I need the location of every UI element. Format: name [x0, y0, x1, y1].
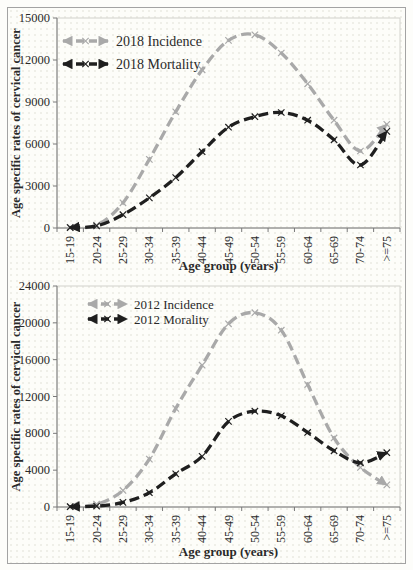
figure: 0300060009000120001500015-1920-2425-2930… — [0, 0, 413, 570]
x-tick-label: 65-69 — [327, 515, 341, 543]
x-tick-label: 30-34 — [142, 236, 156, 264]
x-axis-title: Age group (years) — [179, 258, 278, 273]
legend-item: 2018 Mortality — [63, 57, 200, 72]
y-axis-title: Age specific rates of cervical cancer — [9, 28, 23, 218]
x-axis: 15-1920-2425-2930-3435-3940-4445-4950-54… — [57, 507, 400, 543]
y-tick-label: 4000 — [25, 463, 50, 477]
x-tick-label: 70-74 — [353, 515, 367, 543]
y-tick-label: 8000 — [25, 426, 50, 440]
x-tick-label: 20-24 — [90, 236, 104, 264]
x-tick-label: >=75 — [380, 236, 394, 262]
legend-label: 2012 Incidence — [134, 297, 214, 312]
x-axis-title: Age group (years) — [179, 544, 278, 559]
x-tick-label: 15-19 — [63, 236, 77, 264]
legend: 2018 Incidence2018 Mortality — [63, 34, 202, 72]
x-tick-label: 40-44 — [195, 515, 209, 543]
y-tick-label: 16000 — [19, 353, 50, 367]
y-tick-label: 12000 — [19, 53, 50, 67]
y-tick-label: 24000 — [19, 281, 50, 293]
y-tick-label: 0 — [44, 500, 50, 514]
x-tick-label: 45-49 — [222, 515, 236, 543]
y-tick-label: 6000 — [25, 137, 50, 151]
y-tick-label: 20000 — [19, 316, 50, 330]
x-tick-label: 65-69 — [327, 236, 341, 264]
x-tick-label: 70-74 — [353, 236, 367, 264]
legend: 2012 Incidence2012 Morality — [88, 297, 214, 327]
x-tick-label: 25-29 — [116, 236, 130, 264]
legend-item: 2012 Morality — [88, 312, 209, 327]
x-tick-label: 35-39 — [169, 515, 183, 543]
y-tick-label: 0 — [44, 221, 50, 235]
x-tick-label: 30-34 — [142, 515, 156, 543]
x-tick-label: 55-59 — [274, 515, 288, 543]
x-tick-label: >=75 — [380, 515, 394, 541]
legend-label: 2018 Incidence — [116, 34, 202, 49]
plot-area-border — [57, 18, 400, 228]
series-line — [70, 411, 387, 507]
y-axis-title: Age specific rates of cervical cancer — [9, 301, 23, 491]
y-axis: 03000600090001200015000 — [19, 11, 57, 235]
chart-2018: 0300060009000120001500015-1920-2425-2930… — [8, 8, 405, 280]
legend-label: 2012 Morality — [134, 312, 209, 327]
series-line — [70, 312, 387, 506]
x-tick-label: 15-19 — [63, 515, 77, 543]
legend-label: 2018 Mortality — [116, 57, 200, 72]
x-tick-label: 50-54 — [248, 515, 262, 543]
y-tick-label: 9000 — [25, 95, 50, 109]
x-tick-label: 60-64 — [301, 515, 315, 543]
legend-item: 2012 Incidence — [88, 297, 214, 312]
y-tick-label: 12000 — [19, 390, 50, 404]
chart-2012: 0400080001200016000200002400015-1920-242… — [8, 281, 405, 563]
series-2012-incidence — [67, 310, 390, 510]
x-tick-label: 20-24 — [90, 515, 104, 543]
x-tick-label: 25-29 — [116, 515, 130, 543]
legend-item: 2018 Incidence — [63, 34, 202, 49]
y-tick-label: 3000 — [25, 179, 50, 193]
x-tick-label: 60-64 — [301, 236, 315, 264]
y-axis: 04000800012000160002000024000 — [19, 281, 57, 514]
y-tick-label: 15000 — [19, 11, 50, 25]
